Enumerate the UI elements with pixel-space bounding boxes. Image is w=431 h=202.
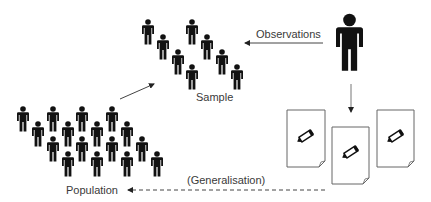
sample-label: Sample	[196, 92, 233, 103]
observer-person-icon	[336, 14, 363, 71]
person-icon	[136, 136, 148, 161]
person-icon	[186, 19, 198, 44]
person-icon	[91, 121, 103, 146]
person-icon	[186, 64, 198, 89]
person-icon	[231, 64, 243, 89]
population-group	[17, 106, 163, 176]
person-icon	[151, 151, 163, 176]
person-icon	[62, 151, 74, 176]
observations-label: Observations	[256, 29, 321, 40]
person-icon	[47, 106, 59, 131]
person-icon	[121, 121, 133, 146]
person-icon	[17, 106, 29, 131]
document-with-pencil-icon	[332, 127, 369, 184]
person-icon	[216, 49, 228, 74]
population-label: Population	[66, 185, 118, 196]
generalisation-label: (Generalisation)	[187, 175, 265, 186]
document-with-pencil-icon	[377, 110, 414, 167]
person-icon	[76, 136, 88, 161]
person-icon	[121, 151, 133, 176]
person-icon	[106, 106, 118, 131]
person-icon	[62, 121, 74, 146]
person-icon	[142, 19, 154, 44]
document-with-pencil-icon	[287, 110, 325, 167]
person-icon	[32, 121, 44, 146]
person-icon	[157, 34, 169, 59]
person-icon	[76, 106, 88, 131]
population-to-sample-arrow	[120, 84, 154, 99]
sample-group	[142, 19, 243, 89]
person-icon	[91, 151, 103, 176]
person-icon	[172, 49, 184, 74]
person-icon	[201, 34, 213, 59]
person-icon	[47, 136, 59, 161]
person-icon	[106, 136, 118, 161]
